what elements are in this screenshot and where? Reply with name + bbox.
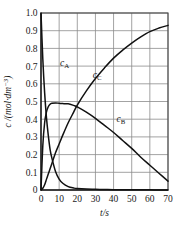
x-tick-label: 0	[39, 194, 44, 204]
x-tick-label: 50	[127, 194, 137, 204]
x-tick-label: 30	[91, 194, 101, 204]
y-tick-label: 0.5	[26, 97, 38, 107]
x-tick-label: 40	[109, 194, 119, 204]
y-tick-label: 0.3	[26, 132, 38, 142]
y-tick-label: 0	[33, 185, 38, 195]
y-tick-label: 0.9	[26, 26, 38, 36]
x-axis-title: t/s	[100, 208, 109, 218]
y-tick-label: 0.6	[26, 79, 38, 89]
x-tick-label: 20	[73, 194, 83, 204]
y-tick-label: 0.4	[26, 115, 38, 125]
y-tick-label: 1.0	[26, 8, 38, 18]
chart-figure: 010203040506070 00.10.20.30.40.50.60.70.…	[0, 0, 182, 235]
x-tick-label: 60	[145, 194, 155, 204]
y-tick-label: 0.8	[26, 44, 38, 54]
concentration-vs-time-chart: 010203040506070 00.10.20.30.40.50.60.70.…	[0, 0, 182, 235]
x-tick-label: 10	[54, 194, 64, 204]
x-tick-label: 70	[163, 194, 173, 204]
y-tick-label: 0.2	[26, 150, 38, 160]
y-tick-label: 0.7	[26, 62, 38, 72]
y-tick-label: 0.1	[26, 168, 38, 178]
